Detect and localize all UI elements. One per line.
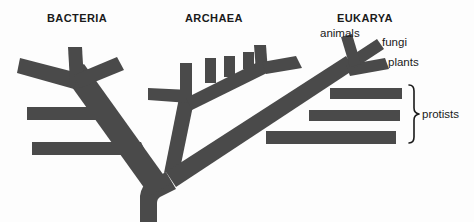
phylogenetic-tree-figure: BACTERIA ARCHAEA EUKARYA animals fungi p… — [0, 0, 474, 222]
tree-of-life-diagram — [0, 0, 474, 222]
archaea-prong-left — [180, 63, 192, 98]
archaea-branch-terminal-right — [262, 56, 302, 74]
archaea-prong-2 — [224, 56, 235, 77]
taxon-label-animals: animals — [320, 27, 360, 39]
eukarya-branch-protist-upper — [330, 88, 402, 99]
domain-heading-bacteria: BACTERIA — [47, 12, 107, 24]
domain-heading-archaea: ARCHAEA — [185, 12, 243, 24]
protists-brace — [409, 85, 419, 143]
bacteria-branch-middle — [27, 107, 121, 120]
archaea-prong-1 — [205, 58, 216, 83]
taxon-label-plants: plants — [388, 56, 419, 68]
bacteria-branch-lower — [32, 142, 147, 155]
eukarya-branch-protist-middle — [309, 110, 400, 121]
taxon-label-fungi: fungi — [382, 36, 407, 48]
eukarya-branch-protist-lower — [266, 131, 396, 144]
domain-heading-eukarya: EUKARYA — [337, 12, 393, 24]
bacteria-branch-upper-left — [17, 58, 78, 89]
taxon-label-protists: protists — [422, 108, 459, 120]
archaea-prong-3 — [243, 52, 254, 69]
